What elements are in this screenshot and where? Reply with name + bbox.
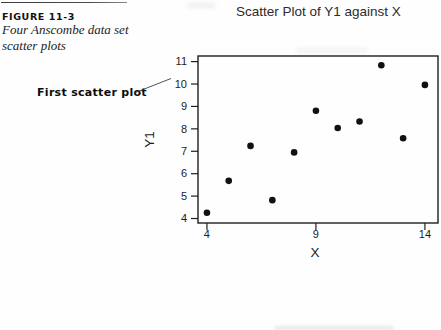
y-tick-label: 5 <box>181 190 187 202</box>
y-tick-label: 11 <box>176 55 187 67</box>
data-point <box>356 118 363 125</box>
y-tick-label: 8 <box>181 123 187 135</box>
y-tick-label: 4 <box>181 212 187 224</box>
data-point <box>378 62 385 69</box>
data-point <box>334 125 341 132</box>
y-tick-label: 6 <box>181 167 187 179</box>
data-point <box>269 197 276 204</box>
data-point <box>204 209 211 216</box>
x-tick-label: 14 <box>419 228 431 240</box>
data-point <box>225 178 232 185</box>
data-point <box>400 135 407 142</box>
data-point <box>313 107 320 114</box>
annotation-leader-line <box>134 79 171 94</box>
y-axis-label: Y1 <box>142 131 157 148</box>
data-point <box>247 143 254 150</box>
x-tick-label: 9 <box>313 228 319 240</box>
y-tick-label: 7 <box>181 145 187 157</box>
y-tick-label: 9 <box>181 100 187 112</box>
x-axis-label: X <box>310 245 319 260</box>
y-tick-label: 10 <box>175 78 187 90</box>
data-point <box>291 149 298 156</box>
x-tick-label: 4 <box>204 228 210 240</box>
data-point <box>422 82 429 89</box>
